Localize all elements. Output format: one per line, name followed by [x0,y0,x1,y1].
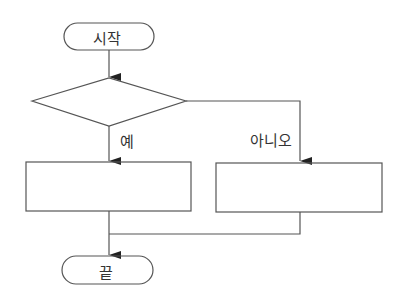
end-label: 끝 [99,261,113,282]
yes-process-box [26,162,191,211]
decision-diamond [32,78,186,126]
yes-label: 예 [120,130,134,151]
no-label: 아니오 [250,129,292,150]
merge-line [109,212,300,234]
no-process-box [216,163,382,212]
flowchart-canvas [0,0,403,299]
start-label: 시작 [93,27,121,48]
